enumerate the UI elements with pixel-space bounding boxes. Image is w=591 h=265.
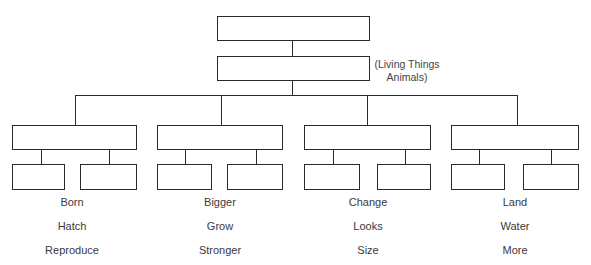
connector-branch3-child2 xyxy=(405,150,406,164)
branch2-word3: Stronger xyxy=(170,244,270,256)
connector-branch3 xyxy=(367,95,368,125)
branch3-child1-box xyxy=(304,164,360,190)
branch1-word1: Born xyxy=(22,196,122,208)
branch4-word3: More xyxy=(465,244,565,256)
connector-branch4-child1 xyxy=(479,150,480,164)
branch3-word2: Looks xyxy=(318,220,418,232)
connector-branch1-child2 xyxy=(109,150,110,164)
connector-branch1-child1 xyxy=(41,150,42,164)
branch1-child2-box xyxy=(80,164,137,190)
level2-note: (Living Things Animals) xyxy=(372,58,442,84)
branch4-child2-box xyxy=(523,164,579,190)
level2-note-line2: Animals) xyxy=(372,71,442,84)
branch3-box xyxy=(304,125,431,150)
branch-bus xyxy=(75,95,518,96)
branch3-word3: Size xyxy=(318,244,418,256)
branch2-box xyxy=(157,125,283,150)
root-box xyxy=(217,16,370,41)
branch1-word3: Reproduce xyxy=(22,244,122,256)
branch3-word1: Change xyxy=(318,196,418,208)
branch2-word1: Bigger xyxy=(170,196,270,208)
connector-branch3-child1 xyxy=(333,150,334,164)
branch1-child1-box xyxy=(12,164,65,190)
branch2-child1-box xyxy=(157,164,212,190)
branch4-word1: Land xyxy=(465,196,565,208)
branch1-word2: Hatch xyxy=(22,220,122,232)
connector-root-level2 xyxy=(292,41,293,56)
connector-branch2-child1 xyxy=(185,150,186,164)
connector-level2-bus xyxy=(292,81,293,96)
branch4-word2: Water xyxy=(465,220,565,232)
branch3-child2-box xyxy=(377,164,431,190)
branch4-box xyxy=(451,125,579,150)
connector-branch4-child2 xyxy=(551,150,552,164)
connector-branch2 xyxy=(221,95,222,125)
connector-branch2-child2 xyxy=(256,150,257,164)
branch2-child2-box xyxy=(227,164,283,190)
connector-branch1 xyxy=(75,95,76,125)
branch2-word2: Grow xyxy=(170,220,270,232)
branch4-child1-box xyxy=(451,164,505,190)
level2-note-line1: (Living Things xyxy=(372,58,442,71)
connector-branch4 xyxy=(517,95,518,125)
level2-box xyxy=(217,56,370,81)
branch1-box xyxy=(12,125,137,150)
